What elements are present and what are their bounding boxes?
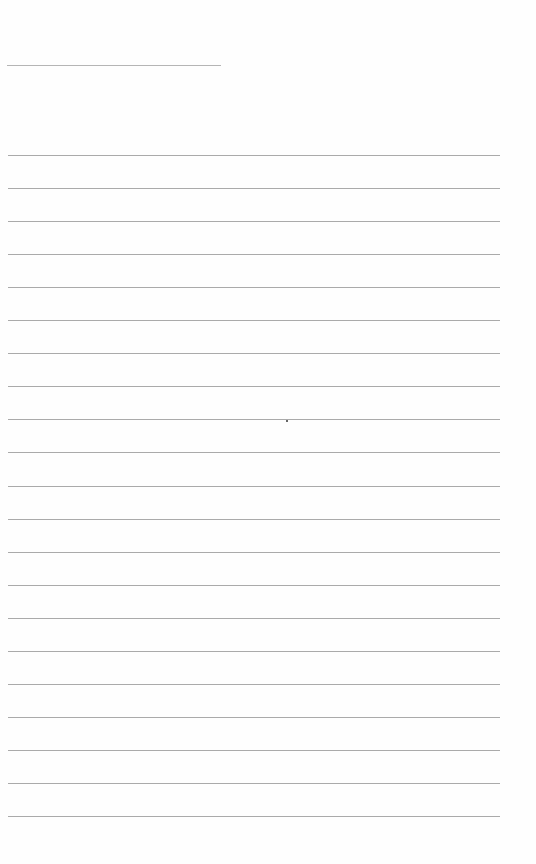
ruled-line [8, 585, 500, 586]
ruled-line [8, 419, 500, 420]
ruled-line [8, 552, 500, 553]
ruled-line [8, 684, 500, 685]
ruled-line [8, 651, 500, 652]
ruled-line [8, 386, 500, 387]
ruled-line [8, 254, 500, 255]
ruled-line [8, 816, 500, 817]
ruled-line [8, 717, 500, 718]
ruled-line [8, 320, 500, 321]
ruled-line [8, 287, 500, 288]
ruled-line [8, 155, 500, 156]
ruled-line [8, 486, 500, 487]
ruled-line [8, 221, 500, 222]
ruled-line [8, 519, 500, 520]
title-underline [7, 65, 221, 66]
ruled-line [8, 188, 500, 189]
stray-mark [286, 420, 288, 422]
ruled-line [8, 353, 500, 354]
ruled-line [8, 452, 500, 453]
ruled-line [8, 750, 500, 751]
lined-page [0, 0, 536, 864]
ruled-line [8, 783, 500, 784]
ruled-line [8, 618, 500, 619]
